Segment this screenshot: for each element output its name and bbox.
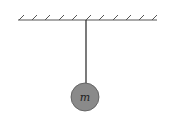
mass-label: m — [80, 91, 90, 104]
pendulum-diagram: m — [0, 0, 172, 118]
ceiling-support — [18, 15, 157, 20]
ceiling-hatching — [19, 15, 157, 20]
